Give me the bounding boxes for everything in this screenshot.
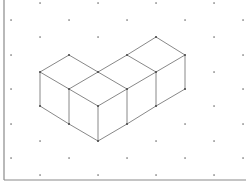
isometric-diagram — [0, 0, 246, 182]
grid-dot — [97, 174, 98, 175]
cube-vertex — [184, 88, 186, 90]
cube-edge — [156, 55, 185, 72]
cube-vertex — [184, 54, 186, 56]
grid-dot — [242, 123, 243, 124]
grid-dot — [155, 174, 156, 175]
cube-vertex — [39, 105, 41, 107]
grid-dot — [155, 140, 156, 141]
grid-dot — [213, 105, 214, 106]
diagram-svg — [0, 0, 246, 182]
cube-edge — [156, 89, 185, 106]
grid-dot — [213, 140, 214, 141]
grid-dot — [39, 36, 40, 37]
grid-dot — [126, 19, 127, 20]
cube-edge — [69, 72, 98, 89]
cube-vertex — [68, 123, 70, 125]
grid-dot — [10, 88, 11, 89]
grid-dot — [242, 88, 243, 89]
cube-edge — [98, 89, 127, 106]
cube-vertex — [39, 71, 41, 73]
grid-dot — [39, 174, 40, 175]
cube-edge — [127, 37, 156, 55]
cube-edge — [98, 72, 127, 89]
grid-dot — [10, 123, 11, 124]
cube-edge — [98, 55, 127, 72]
grid-dot — [242, 19, 243, 20]
cube-edge — [40, 72, 69, 89]
cube-vertex — [97, 71, 99, 73]
cube-vertex — [97, 140, 99, 142]
grid-dot — [39, 140, 40, 141]
grid-dot — [68, 19, 69, 20]
cube-vertex — [126, 54, 128, 56]
grid-dot — [213, 71, 214, 72]
cube-edge — [98, 124, 127, 141]
grid-dot — [184, 157, 185, 158]
grid-dot — [10, 19, 11, 20]
grid-dot — [155, 2, 156, 3]
grid-dot — [242, 157, 243, 158]
grid-dot — [184, 19, 185, 20]
cube-vertex — [126, 88, 128, 90]
cube-vertex — [155, 105, 157, 107]
cube-vertex — [97, 105, 99, 107]
grid-dot — [97, 2, 98, 3]
grid-dot — [213, 2, 214, 3]
cube-edge — [69, 55, 98, 72]
cube-edges — [40, 37, 185, 141]
cube-vertex — [68, 54, 70, 56]
grid-dot — [68, 157, 69, 158]
cube-edge — [40, 55, 69, 72]
cube-edge — [127, 72, 156, 89]
cube-edge — [127, 106, 156, 124]
grid-dot — [39, 2, 40, 3]
grid-dot — [242, 54, 243, 55]
grid-dot — [126, 157, 127, 158]
cube-vertices — [39, 36, 186, 142]
grid-dot — [213, 174, 214, 175]
cube-vertex — [68, 88, 70, 90]
cube-edge — [156, 37, 185, 55]
grid-dot — [184, 123, 185, 124]
cube-vertex — [126, 123, 128, 125]
cube-edge — [69, 89, 98, 106]
cube-vertex — [155, 36, 157, 38]
cube-edge — [69, 124, 98, 141]
grid-dot — [10, 54, 11, 55]
cube-edge — [127, 55, 156, 72]
grid-dot — [10, 157, 11, 158]
grid-dot — [213, 36, 214, 37]
grid-dot — [97, 36, 98, 37]
cube-edge — [40, 106, 69, 124]
cube-vertex — [155, 71, 157, 73]
